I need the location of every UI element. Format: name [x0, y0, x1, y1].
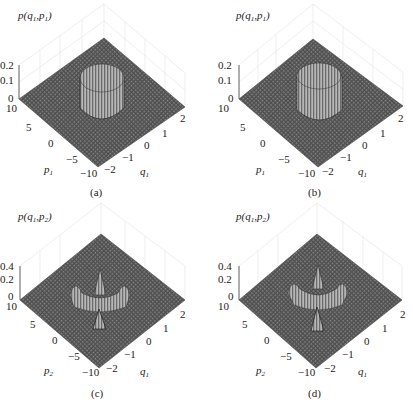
p-tick: 5 — [30, 319, 36, 330]
surface-peak — [80, 64, 124, 119]
q-tick: 1 — [162, 128, 168, 139]
p-tick: −10 — [82, 367, 99, 378]
q-axis-label: q1 — [140, 366, 149, 381]
q-tick: 2 — [180, 113, 186, 124]
surface-peak — [297, 63, 342, 120]
p-tick: 10 — [218, 301, 229, 312]
q-tick: 2 — [180, 309, 186, 320]
q-tick: −1 — [122, 152, 134, 163]
p-tick: 5 — [240, 122, 246, 133]
panel-caption: (b) — [308, 187, 321, 198]
p-tick: 10 — [6, 301, 17, 312]
panel-c: p(q1,p2) 0.4 0.2 0 10 5 0 −5 −10 p2 2 1 … — [0, 203, 206, 408]
q-tick: 0 — [364, 336, 370, 347]
panel-b: p(q1,p1) 0.2 0.1 0 10 5 0 −5 −10 p1 2 1 … — [218, 0, 413, 205]
q-axis-label: q1 — [140, 166, 149, 181]
p-axis-label: p2 — [256, 365, 265, 380]
p-tick: 0 — [264, 335, 270, 346]
panel-caption: (d) — [308, 388, 321, 399]
surface-plot — [218, 0, 413, 205]
q-tick: 0 — [362, 140, 368, 151]
p-tick: −5 — [66, 154, 78, 165]
q-tick: 1 — [163, 323, 169, 334]
z-tick: 0.2 — [218, 60, 232, 71]
q-tick: 0 — [144, 140, 150, 151]
q-axis-label: q1 — [358, 166, 367, 181]
q-tick: −2 — [104, 164, 116, 175]
q-tick: 1 — [380, 128, 386, 139]
panel-d: p(q1,p2) 0.4 0.2 0 10 5 0 −5 −10 p2 2 1 … — [218, 203, 413, 408]
p-tick: −10 — [298, 168, 315, 179]
z-tick: 0.1 — [0, 75, 14, 86]
surface-plot — [0, 203, 206, 408]
panel-caption: (a) — [90, 187, 102, 198]
p-tick: 0 — [52, 335, 58, 346]
z-tick: 0.2 — [218, 274, 232, 285]
q-tick: 0 — [146, 336, 152, 347]
p-tick: 5 — [26, 122, 32, 133]
q-tick: −2 — [106, 363, 118, 374]
p-axis-label: p1 — [44, 164, 53, 179]
z-axis-label: p(q1,p1) — [236, 10, 270, 25]
p-axis-label: p2 — [44, 365, 53, 380]
surface-plot — [0, 0, 206, 205]
panel-a: p(q1,p1) 0.2 0.1 0 10 5 0 −5 −10 p1 2 1 … — [0, 0, 206, 205]
z-tick: 0.4 — [218, 261, 232, 272]
z-tick: 0.4 — [0, 261, 14, 272]
p-axis-label: p1 — [256, 164, 265, 179]
p-tick: −10 — [80, 168, 97, 179]
p-tick: 10 — [218, 103, 229, 114]
q-tick: −1 — [124, 349, 136, 360]
z-axis-label: p(q1,p1) — [18, 10, 52, 25]
q-tick: −1 — [340, 152, 352, 163]
p-tick: −5 — [278, 154, 290, 165]
p-tick: −10 — [298, 367, 315, 378]
p-tick: 5 — [242, 319, 248, 330]
panel-caption: (c) — [91, 388, 103, 399]
q-tick: −2 — [322, 166, 334, 177]
p-tick: −5 — [68, 351, 80, 362]
p-tick: 0 — [48, 138, 54, 149]
q-tick: −1 — [342, 349, 354, 360]
q-tick: 2 — [400, 309, 406, 320]
surface-plot — [218, 203, 413, 408]
p-tick: −5 — [280, 351, 292, 362]
q-axis-label: q1 — [358, 366, 367, 381]
p-tick: 0 — [260, 138, 266, 149]
p-tick: 10 — [6, 103, 17, 114]
z-tick: 0.2 — [0, 60, 14, 71]
z-axis-label: p(q1,p2) — [236, 211, 270, 226]
z-tick: 0.2 — [0, 274, 14, 285]
q-tick: 1 — [382, 323, 388, 334]
q-tick: 2 — [398, 113, 404, 124]
z-axis-label: p(q1,p2) — [18, 211, 52, 226]
z-tick: 0.1 — [218, 75, 232, 86]
q-tick: −2 — [324, 363, 336, 374]
